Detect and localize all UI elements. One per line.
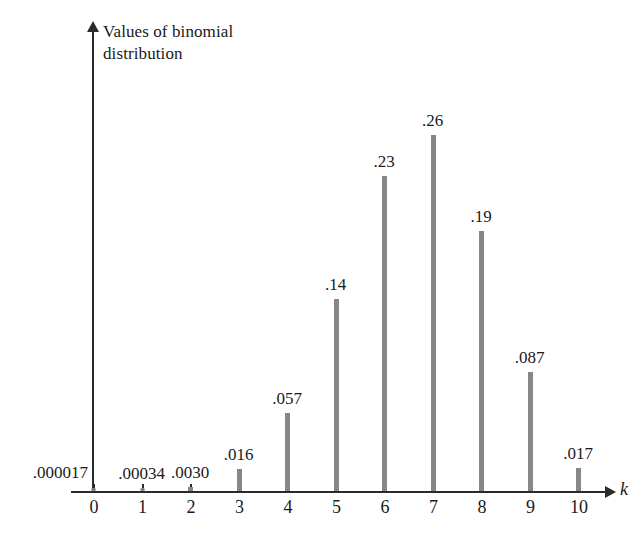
bar-k-10 — [576, 468, 581, 491]
y-axis-line — [92, 30, 94, 493]
bar-value-label-k-5: .14 — [291, 275, 381, 295]
bar-value-label-k-8: .19 — [436, 207, 526, 227]
x-axis-tick-label-3: 3 — [220, 497, 260, 518]
bar-value-label-k-0: .000017 — [33, 463, 88, 483]
bar-k-0 — [91, 488, 96, 491]
bar-k-8 — [479, 231, 484, 491]
bar-k-4 — [285, 413, 290, 491]
x-axis-tick-label-7: 7 — [414, 497, 454, 518]
chart-canvas: Values of binomial distribution k 0.0000… — [0, 0, 643, 539]
x-axis-tick-label-8: 8 — [462, 497, 502, 518]
x-axis-tick-label-9: 9 — [511, 497, 551, 518]
y-axis-title: Values of binomial distribution — [103, 21, 323, 65]
x-axis-tick-label-10: 10 — [559, 497, 599, 518]
x-axis-title: k — [620, 479, 628, 500]
bar-value-label-k-4: .057 — [242, 389, 332, 409]
bar-k-2 — [188, 487, 193, 491]
bar-value-label-k-10: .017 — [533, 444, 623, 464]
x-axis-tick-label-2: 2 — [171, 497, 211, 518]
y-axis-title-line-2: distribution — [103, 43, 323, 65]
x-axis-tick-label-5: 5 — [317, 497, 357, 518]
bar-value-label-k-3: .016 — [194, 445, 284, 465]
bar-k-3 — [237, 469, 242, 491]
x-axis-tick-label-4: 4 — [268, 497, 308, 518]
bar-k-7 — [431, 135, 436, 491]
bar-value-label-k-6: .23 — [339, 152, 429, 172]
x-axis-tick-label-6: 6 — [365, 497, 405, 518]
bar-k-5 — [334, 299, 339, 491]
x-axis-tick-label-1: 1 — [123, 497, 163, 518]
bar-value-label-k-2: .0030 — [145, 463, 235, 483]
y-axis-arrow-icon — [87, 21, 99, 32]
bar-value-label-k-9: .087 — [485, 348, 575, 368]
x-axis-tick-label-0: 0 — [74, 497, 114, 518]
x-axis-arrow-icon — [605, 486, 616, 498]
bar-k-9 — [528, 372, 533, 491]
bar-k-6 — [382, 176, 387, 491]
bar-k-1 — [140, 488, 145, 491]
bar-value-label-k-7: .26 — [388, 111, 478, 131]
y-axis-title-line-1: Values of binomial — [103, 21, 323, 43]
